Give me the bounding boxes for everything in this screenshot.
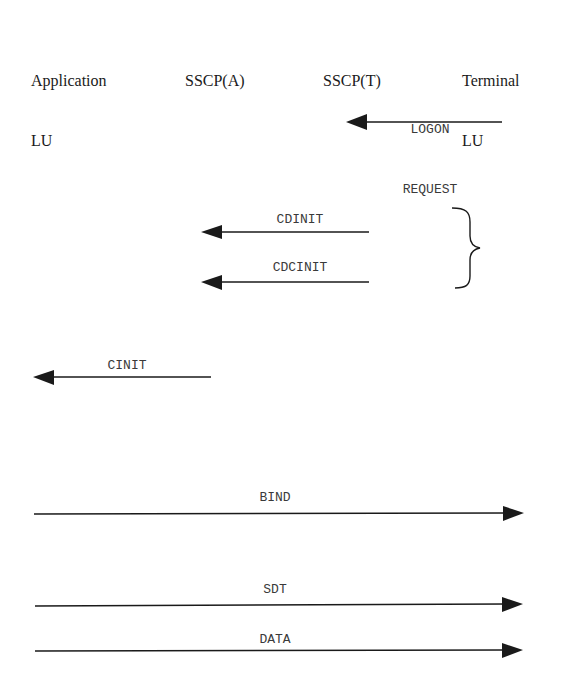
arrow-sdt xyxy=(35,604,506,606)
arrowhead-left-icon xyxy=(346,114,367,130)
arrowhead-left-icon xyxy=(201,225,222,239)
grouping-brace-icon xyxy=(452,208,480,288)
arrow-bind xyxy=(34,513,506,514)
arrows-layer xyxy=(0,0,564,693)
arrow-data xyxy=(35,650,506,651)
arrowhead-left-icon xyxy=(33,370,54,385)
sna-session-sequence-diagram: Application LU SSCP(A) SSCP(T) Terminal … xyxy=(0,0,564,693)
arrowhead-right-icon xyxy=(502,597,523,612)
arrowhead-right-icon xyxy=(503,506,524,521)
arrowhead-left-icon xyxy=(201,275,222,290)
arrowhead-right-icon xyxy=(502,643,523,658)
